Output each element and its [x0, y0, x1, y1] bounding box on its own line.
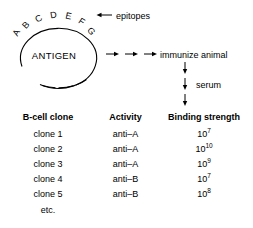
epitope-letter-d: D	[49, 9, 58, 20]
cell-activity: anti–A	[96, 156, 155, 171]
binding-base: 10	[197, 174, 207, 184]
cell-clone: clone 2	[0, 141, 96, 156]
table-row: clone 5anti–B108	[0, 187, 253, 202]
epitope-letter-c: C	[33, 12, 44, 24]
binding-base: 10	[197, 189, 207, 199]
epitope-letter-e: E	[65, 11, 73, 22]
cell-binding-strength: 108	[155, 187, 253, 202]
cell-clone: clone 3	[0, 156, 96, 171]
cell-clone: clone 4	[0, 172, 96, 187]
table-row-etc: etc.	[0, 202, 253, 218]
serum-label: serum	[196, 80, 221, 90]
epitope-letter-f: F	[77, 16, 87, 28]
header-activity: Activity	[96, 112, 155, 126]
cell-activity: anti–B	[96, 172, 155, 187]
immunize-arrows-icon	[106, 52, 157, 56]
cell-clone: clone 5	[0, 187, 96, 202]
cell-binding-strength: 107	[155, 172, 253, 187]
table-row: clone 4anti–B107	[0, 172, 253, 187]
cell-binding-strength: 1010	[155, 141, 253, 156]
table-row: clone 1anti–A107	[0, 126, 253, 141]
cell-activity: anti–B	[96, 187, 155, 202]
epitopes-arrow-icon	[97, 13, 113, 17]
etc-binding-blank	[155, 202, 253, 218]
clone-results-table: B-cell clone Activity Binding strength c…	[0, 112, 253, 218]
cell-activity: anti–A	[96, 126, 155, 141]
table-row: clone 2anti–A1010	[0, 141, 253, 156]
antigen-label: ANTIGEN	[32, 50, 76, 61]
immunize-animal-label: immunize animal	[160, 50, 228, 60]
binding-exponent: 8	[207, 187, 211, 194]
binding-exponent: 7	[207, 127, 211, 134]
immunization-schematic: ANTIGEN A B C D E F G epitopes immunize …	[0, 0, 253, 112]
etc-label: etc.	[0, 202, 96, 218]
cell-binding-strength: 107	[155, 126, 253, 141]
table-row: clone 3anti–A109	[0, 156, 253, 171]
antigen-antibody-diagram: ANTIGEN A B C D E F G epitopes immunize …	[0, 0, 253, 228]
binding-exponent: 9	[207, 157, 211, 164]
epitope-letters: A B C D E F G	[11, 9, 98, 37]
header-b-cell-clone: B-cell clone	[0, 112, 96, 126]
binding-exponent: 7	[207, 172, 211, 179]
cell-binding-strength: 109	[155, 156, 253, 171]
epitope-letter-g: G	[85, 25, 97, 37]
epitope-letter-a: A	[11, 28, 23, 38]
binding-base: 10	[195, 144, 205, 154]
table-header-row: B-cell clone Activity Binding strength	[0, 112, 253, 126]
cell-activity: anti–A	[96, 141, 155, 156]
epitopes-label: epitopes	[116, 11, 151, 21]
epitope-letter-b: B	[20, 19, 31, 30]
binding-base: 10	[197, 129, 207, 139]
binding-base: 10	[197, 159, 207, 169]
etc-activity-blank	[96, 202, 155, 218]
binding-exponent: 10	[205, 142, 212, 149]
serum-arrows-icon	[183, 62, 187, 106]
cell-clone: clone 1	[0, 126, 96, 141]
header-binding-strength: Binding strength	[155, 112, 253, 126]
